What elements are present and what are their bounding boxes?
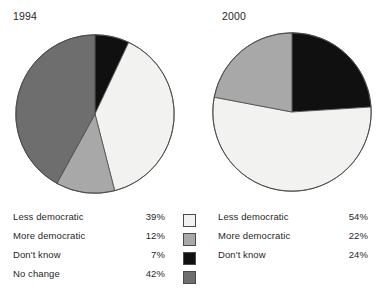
- legend-item: More democratic 12%: [13, 230, 165, 249]
- legend-label: Don't know: [218, 249, 342, 260]
- legend-item: Less democratic 39%: [13, 211, 165, 230]
- legend-value: 42%: [139, 268, 165, 279]
- swatch-no-change: [183, 271, 196, 284]
- legend-label: More democratic: [218, 230, 342, 241]
- legend-1994: Less democratic 39% More democratic 12% …: [13, 211, 165, 287]
- legend-value: 22%: [342, 230, 368, 241]
- pie-1994-svg: [15, 34, 175, 194]
- swatch-cell: [183, 268, 196, 287]
- swatch-less-democratic: [183, 214, 196, 227]
- chart-title-2000: 2000: [222, 10, 246, 22]
- pie-2000-slices: [213, 33, 371, 191]
- legend-item: No change 42%: [13, 268, 165, 287]
- legend-value: 54%: [342, 211, 368, 222]
- pie-1994-slices: [16, 35, 174, 193]
- pie-2000-svg: [212, 32, 372, 192]
- legend-label: More democratic: [13, 230, 139, 241]
- pie-slice: [292, 33, 371, 112]
- legend-label: Less democratic: [13, 211, 139, 222]
- legend-item: More democratic 22%: [218, 230, 368, 249]
- legend-label: No change: [13, 268, 139, 279]
- legend-swatch-column: [183, 211, 196, 287]
- swatch-more-democratic: [183, 233, 196, 246]
- legend-value: 7%: [139, 249, 165, 260]
- legend-value: 24%: [342, 249, 368, 260]
- swatch-dont-know: [183, 252, 196, 265]
- pie-chart-figure: 1994 2000 Less democratic 39% More democ…: [0, 0, 382, 300]
- pie-chart-1994: [15, 34, 175, 194]
- legend-item: Less democratic 54%: [218, 211, 368, 230]
- legend-item: Don't know 24%: [218, 249, 368, 268]
- legend-value: 39%: [139, 211, 165, 222]
- legend-item: Don't know 7%: [13, 249, 165, 268]
- swatch-cell: [183, 230, 196, 249]
- legend-2000: Less democratic 54% More democratic 22% …: [218, 211, 368, 268]
- chart-title-1994: 1994: [13, 10, 37, 22]
- legend-label: Don't know: [13, 249, 139, 260]
- pie-chart-2000: [212, 32, 372, 192]
- legend-label: Less democratic: [218, 211, 342, 222]
- swatch-cell: [183, 211, 196, 230]
- swatch-cell: [183, 249, 196, 268]
- legend-value: 12%: [139, 230, 165, 241]
